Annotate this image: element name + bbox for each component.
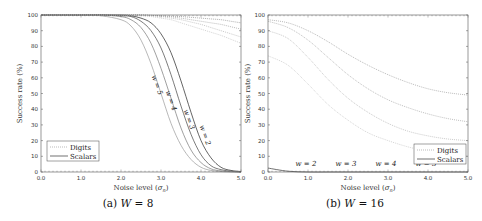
y-tick-label: 70 bbox=[31, 59, 38, 65]
y-tick-label: 10 bbox=[258, 153, 265, 159]
x-tick-label: 3.0 bbox=[157, 175, 166, 181]
x-tick-label: 3.0 bbox=[384, 175, 393, 181]
x-tick-label: 5.0 bbox=[464, 175, 473, 181]
y-tick-label: 90 bbox=[258, 28, 265, 34]
x-axis-label: Noise level (σn) bbox=[114, 184, 169, 193]
y-tick-label: 50 bbox=[258, 91, 265, 97]
y-tick-label: 70 bbox=[258, 59, 265, 65]
x-axis-label: Noise level (σn) bbox=[341, 184, 396, 193]
y-tick-label: 60 bbox=[258, 75, 265, 81]
legend-digits-label: Digits bbox=[437, 147, 458, 155]
legend-scalars-label: Scalars bbox=[437, 156, 464, 164]
chart-caption: (a) W = 8 bbox=[103, 197, 154, 209]
curve-annotation: w = 4 bbox=[376, 160, 397, 168]
y-tick-label: 80 bbox=[258, 43, 265, 49]
curve-annotation: w = 2 bbox=[296, 160, 317, 168]
series-line bbox=[268, 31, 468, 141]
figure: 01020304050607080901000.01.02.03.04.05.0… bbox=[0, 0, 482, 221]
curve-annotation: w = 3 bbox=[336, 160, 357, 168]
figure-canvas: 01020304050607080901000.01.02.03.04.05.0… bbox=[0, 0, 482, 221]
x-tick-label: 0.0 bbox=[264, 175, 273, 181]
y-tick-label: 30 bbox=[31, 122, 38, 128]
chart-panel-b: 01020304050607080901000.01.02.03.04.05.0… bbox=[244, 12, 473, 209]
curve-annotation: w = 3 bbox=[182, 108, 197, 131]
y-tick-label: 40 bbox=[31, 106, 38, 112]
y-tick-label: 100 bbox=[255, 12, 266, 18]
y-tick-label: 30 bbox=[258, 122, 265, 128]
y-tick-label: 40 bbox=[258, 106, 265, 112]
y-tick-label: 50 bbox=[31, 91, 38, 97]
curve-annotation: w = 5 bbox=[150, 74, 165, 97]
y-tick-label: 20 bbox=[31, 138, 38, 144]
series-line bbox=[268, 56, 468, 156]
y-tick-label: 90 bbox=[31, 28, 38, 34]
y-tick-label: 10 bbox=[31, 153, 38, 159]
chart-caption: (b) W = 16 bbox=[326, 197, 384, 209]
y-axis-label: Success rate (%) bbox=[244, 63, 252, 123]
x-tick-label: 0.0 bbox=[37, 175, 46, 181]
y-tick-label: 100 bbox=[28, 12, 39, 18]
x-tick-label: 2.0 bbox=[344, 175, 353, 181]
x-tick-label: 1.0 bbox=[77, 175, 86, 181]
x-tick-label: 4.0 bbox=[197, 175, 206, 181]
y-tick-label: 80 bbox=[31, 43, 38, 49]
legend: DigitsScalars bbox=[47, 141, 99, 161]
chart-panel-a: 01020304050607080901000.01.02.03.04.05.0… bbox=[16, 12, 246, 209]
legend: DigitsScalars bbox=[414, 144, 466, 164]
series-line bbox=[268, 20, 468, 95]
x-tick-label: 2.0 bbox=[117, 175, 126, 181]
y-axis-label: Success rate (%) bbox=[16, 63, 24, 123]
y-tick-label: 20 bbox=[258, 138, 265, 144]
curve-annotation: w = 2 bbox=[198, 124, 213, 147]
series-line bbox=[268, 21, 468, 121]
x-tick-label: 1.0 bbox=[304, 175, 313, 181]
series-line bbox=[41, 15, 241, 29]
x-tick-label: 5.0 bbox=[237, 175, 246, 181]
legend-scalars-label: Scalars bbox=[70, 153, 97, 161]
legend-digits-label: Digits bbox=[70, 144, 91, 152]
y-tick-label: 60 bbox=[31, 75, 38, 81]
x-tick-label: 4.0 bbox=[424, 175, 433, 181]
